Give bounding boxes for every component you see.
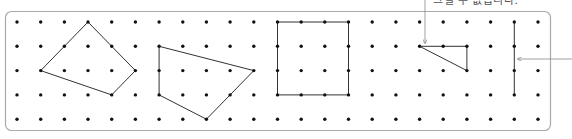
grid-dot — [394, 69, 397, 72]
grid-dot — [110, 20, 113, 23]
grid-dot — [513, 45, 516, 48]
grid-dot — [134, 118, 137, 121]
grid-dot — [323, 93, 326, 96]
grid-dot — [157, 20, 160, 23]
grid-dot — [15, 45, 18, 48]
grid-dot — [276, 118, 279, 121]
grid-dot — [181, 93, 184, 96]
grid-dot — [63, 20, 66, 23]
grid-dot — [228, 118, 231, 121]
grid-dot — [205, 45, 208, 48]
grid-dot — [110, 69, 113, 72]
grid-dot — [442, 20, 445, 23]
grid-dot — [39, 20, 42, 23]
grid-dot — [181, 45, 184, 48]
grid-dot — [252, 69, 255, 72]
grid-dot — [300, 118, 303, 121]
grid-dot — [205, 69, 208, 72]
grid-dot — [15, 20, 18, 23]
grid-dot — [276, 69, 279, 72]
grid-dot — [63, 118, 66, 121]
grid-dot — [513, 69, 516, 72]
grid-dot — [276, 93, 279, 96]
grid-dot — [300, 45, 303, 48]
grid-dot — [157, 45, 160, 48]
grid-dot — [394, 45, 397, 48]
grid-dot — [86, 69, 89, 72]
grid-dot — [418, 45, 421, 48]
grid-dot — [465, 118, 468, 121]
grid-dot — [134, 20, 137, 23]
grid-dot — [536, 20, 539, 23]
grid-dot — [39, 69, 42, 72]
grid-dot — [134, 69, 137, 72]
grid-dot — [418, 20, 421, 23]
grid-dot — [394, 20, 397, 23]
shape-open-triangle — [420, 46, 467, 70]
grid-dot — [157, 93, 160, 96]
shape-square — [278, 22, 349, 95]
grid-dot — [347, 93, 350, 96]
grid-dot — [110, 93, 113, 96]
grid-dot — [442, 69, 445, 72]
grid-dot — [323, 45, 326, 48]
shape-quadrilateral-2 — [159, 46, 254, 119]
grid-dot — [276, 20, 279, 23]
grid-dot — [63, 69, 66, 72]
grid-dot — [536, 93, 539, 96]
grid-dot — [86, 93, 89, 96]
grid-dot — [489, 93, 492, 96]
grid-dot — [465, 45, 468, 48]
grid-dot — [228, 45, 231, 48]
grid-dot — [300, 20, 303, 23]
grid-dot — [465, 93, 468, 96]
caption-text: 그릴 수 없습니다. — [433, 0, 519, 7]
grid-dot — [371, 45, 374, 48]
grid-dot — [465, 69, 468, 72]
grid-dot — [513, 93, 516, 96]
grid-dot — [39, 45, 42, 48]
grid-dot — [181, 69, 184, 72]
grid-dot — [347, 45, 350, 48]
grid-dot — [134, 45, 137, 48]
grid-dot — [489, 118, 492, 121]
grid-dot — [181, 20, 184, 23]
grid-dot — [347, 20, 350, 23]
geoboard-diagram: 그릴 수 없습니다. — [0, 0, 572, 139]
grid-dot — [371, 20, 374, 23]
grid-dot — [394, 93, 397, 96]
grid-dot — [86, 45, 89, 48]
grid-dot — [15, 93, 18, 96]
grid-dot — [252, 118, 255, 121]
shape-quadrilateral-1 — [41, 22, 136, 95]
grid-dot — [323, 20, 326, 23]
grid-dot — [465, 20, 468, 23]
grid-dot — [300, 69, 303, 72]
grid-dot — [513, 118, 516, 121]
grid-dot — [442, 118, 445, 121]
grid-dot — [181, 118, 184, 121]
grid-dot — [228, 69, 231, 72]
grid-dot — [347, 69, 350, 72]
grid-dot — [276, 45, 279, 48]
grid-dot — [489, 69, 492, 72]
grid-dot — [418, 69, 421, 72]
grid-dot — [442, 93, 445, 96]
grid-dot — [300, 93, 303, 96]
grid-dot — [228, 93, 231, 96]
grid-dot — [394, 118, 397, 121]
grid-dot — [371, 69, 374, 72]
grid-dot — [536, 45, 539, 48]
grid-dot — [536, 69, 539, 72]
grid-dot — [15, 69, 18, 72]
grid-dot — [323, 118, 326, 121]
grid-dot — [252, 20, 255, 23]
grid-dot — [205, 118, 208, 121]
grid-dot — [134, 93, 137, 96]
grid-dot — [418, 118, 421, 121]
grid-dot — [63, 93, 66, 96]
grid-dot — [157, 118, 160, 121]
grid-dot — [371, 118, 374, 121]
grid-dot — [536, 118, 539, 121]
grid-dot — [110, 118, 113, 121]
